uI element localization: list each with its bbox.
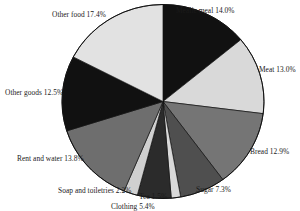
slice-label-meat: Meat 13.0%: [259, 66, 296, 73]
slice-label-other-food: Other food 17.4%: [52, 11, 106, 18]
pie-svg: [0, 0, 300, 211]
slice-label-bread: Bread 12.9%: [250, 148, 289, 155]
slice-label-sugar: Sugar 7.3%: [196, 186, 231, 193]
slice-label-clothing: Clothing 5.4%: [111, 203, 155, 210]
slice-label-other-goods: Other goods 12.5%: [5, 89, 63, 96]
slice-label-rent-and-water: Rent and water 13.8%: [17, 155, 84, 162]
slice-label-soap-and-toiletries: Soap and toiletries 2.2%: [58, 187, 131, 194]
pie-slice-group: [62, 5, 264, 199]
slice-label-tea: Tea 1.5%: [139, 193, 167, 200]
pie-chart: Mealie meal 14.0% Meat 13.0% Bread 12.9%…: [0, 0, 300, 211]
slice-label-mealie-meal: Mealie meal 14.0%: [176, 7, 235, 14]
